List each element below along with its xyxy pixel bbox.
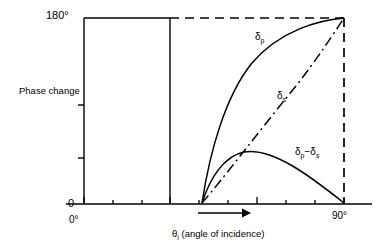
y-axis-title: Phase change	[19, 86, 80, 96]
series-label-delta-p: δp	[255, 32, 264, 44]
x-axis-max-label: 90°	[332, 211, 347, 221]
series-label-delta-p-minus-delta-s: δp−δs	[295, 147, 319, 159]
curve-delta-s	[202, 18, 344, 203]
curve-delta-p-minus-delta-s	[202, 151, 344, 203]
series-label-delta-s: δs	[277, 91, 286, 103]
x-axis-title-text: (angle of incidence)	[179, 228, 265, 239]
increasing-angle-arrow	[198, 209, 251, 218]
delta-s-subscript: s	[283, 96, 287, 103]
y-axis-max-label: 180°	[46, 10, 69, 21]
y-axis-min-label: 0	[68, 198, 74, 209]
x-axis-title: θi (angle of incidence)	[172, 229, 264, 241]
delta-diff-subscript-2: s	[316, 152, 320, 159]
delta-p-subscript: p	[261, 37, 265, 44]
curve-delta-p	[202, 18, 344, 203]
x-axis-ticks	[84, 197, 344, 204]
x-axis-min-label: 0°	[69, 215, 79, 225]
phase-change-chart: 180° 0 Phase change 0° 90° θi (angle of …	[0, 0, 378, 250]
delta-diff-operator: −δ	[304, 146, 315, 157]
chart-plot-area	[0, 0, 378, 250]
